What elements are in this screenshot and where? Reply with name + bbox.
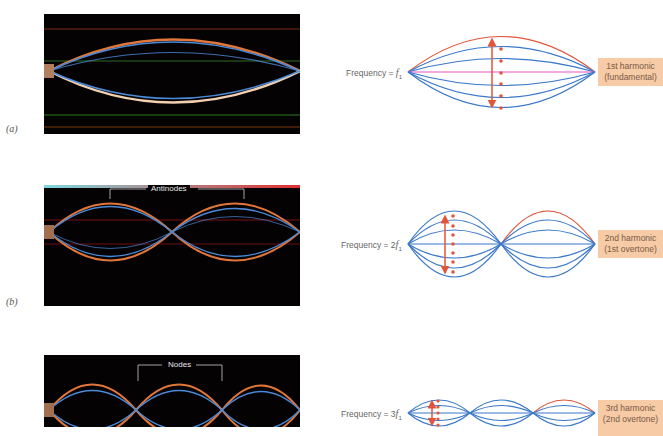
amplitude-dots-b <box>451 214 455 274</box>
wave-diagram-second-harmonic <box>408 211 595 277</box>
wave-diagram-third-harmonic <box>408 399 595 426</box>
wave-diagram-fundamental <box>408 37 595 110</box>
amplitude-dots-c <box>436 399 439 426</box>
amplitude-dots-a <box>499 47 503 110</box>
